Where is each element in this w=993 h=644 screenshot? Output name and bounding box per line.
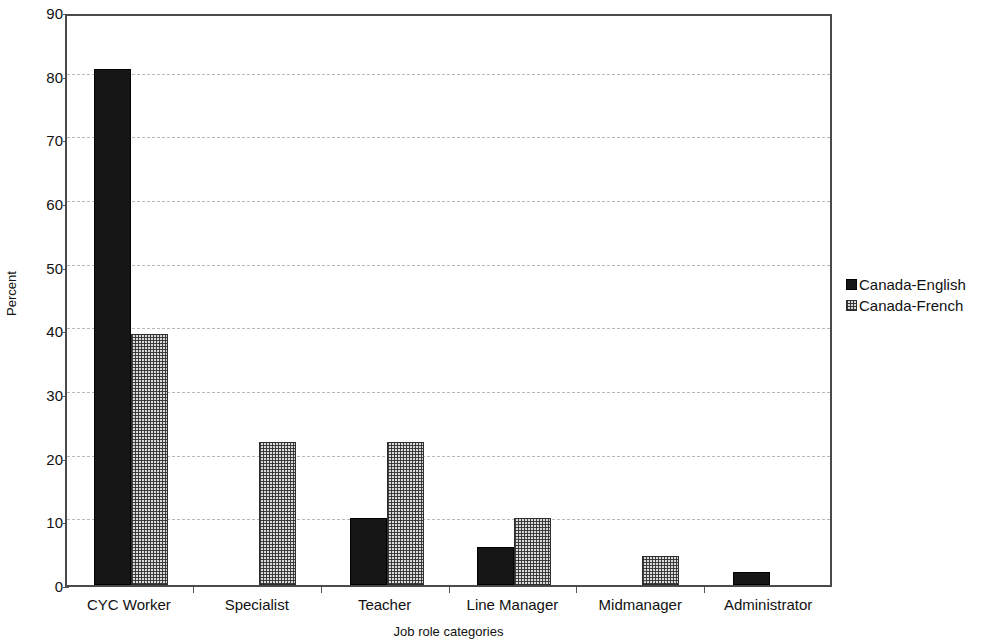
y-axis-ticks: 0102030405060708090 <box>0 0 63 573</box>
y-tick-label: 90 <box>17 6 63 21</box>
x-tick-mark <box>193 587 194 593</box>
y-tick-label: 20 <box>17 452 63 467</box>
bar <box>131 334 168 585</box>
plot-area <box>65 14 832 587</box>
bar <box>733 572 770 585</box>
x-tick-mark <box>576 587 577 593</box>
x-tick-label: Specialist <box>225 596 289 613</box>
x-tick-mark <box>449 587 450 593</box>
x-axis-title: Job role categories <box>65 624 832 639</box>
x-tick-label: CYC Worker <box>87 596 171 613</box>
bar <box>259 442 296 585</box>
x-tick-mark <box>704 587 705 593</box>
y-tick-label: 10 <box>17 515 63 530</box>
bar <box>94 69 131 585</box>
legend: Canada-English Canada-French <box>846 274 966 316</box>
bar-chart: Percent 0102030405060708090 CYC WorkerSp… <box>0 0 993 644</box>
x-tick-label: Administrator <box>724 596 812 613</box>
x-axis-tick-labels: CYC WorkerSpecialistTeacherLine ManagerM… <box>65 596 832 620</box>
x-tick-label: Midmanager <box>599 596 682 613</box>
x-axis-ticks <box>65 585 832 593</box>
legend-label: Canada-English <box>859 274 966 295</box>
y-tick-label: 50 <box>17 261 63 276</box>
bar <box>477 547 514 585</box>
x-tick-mark <box>321 587 322 593</box>
bars-layer <box>67 16 830 585</box>
y-tick-label: 30 <box>17 388 63 403</box>
x-tick-label: Line Manager <box>467 596 559 613</box>
legend-item-canada-english: Canada-English <box>846 274 966 295</box>
legend-item-canada-french: Canada-French <box>846 295 966 316</box>
legend-label: Canada-French <box>859 295 963 316</box>
y-tick-label: 70 <box>17 133 63 148</box>
y-tick-label: 80 <box>17 70 63 85</box>
y-tick-label: 0 <box>17 579 63 594</box>
bar <box>642 556 679 585</box>
bar <box>350 518 387 585</box>
y-tick-label: 60 <box>17 197 63 212</box>
x-tick-label: Teacher <box>358 596 411 613</box>
solid-black-swatch-icon <box>846 279 857 290</box>
bar <box>387 442 424 585</box>
bar <box>514 518 551 585</box>
dotted-grey-swatch-icon <box>846 300 857 311</box>
y-tick-label: 40 <box>17 324 63 339</box>
